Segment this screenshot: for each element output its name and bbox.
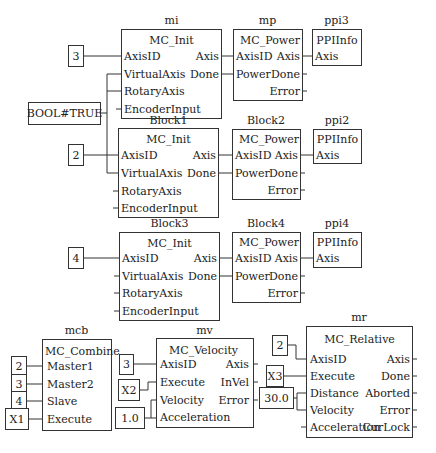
block2-in-axisid: AxisID [235, 150, 271, 162]
block1-in-rotaryaxis: RotaryAxis [121, 186, 182, 198]
block4-type: MC_Power [239, 237, 299, 249]
block1-axisid-constant[interactable]: 2 [68, 144, 84, 166]
block3-in-rotaryaxis: RotaryAxis [122, 288, 183, 300]
mv-in-axisid: AxisID [160, 359, 196, 371]
ppi4-function-block[interactable]: PPIInfo Axis [313, 232, 362, 268]
mi-type: MC_Init [122, 35, 221, 47]
ppi4-type: PPIInfo [314, 237, 361, 249]
ppi3-type: PPIInfo [313, 35, 361, 47]
block1-out-axis: Axis [193, 150, 216, 162]
mr-out-curlock: CurLock [362, 422, 410, 434]
mp-function-block[interactable]: MC_Power AxisID Power Axis Done Error [233, 29, 303, 101]
mp-instance-name: mp [233, 15, 302, 27]
ppi4-in-axis: Axis [316, 253, 339, 265]
mp-out-axis: Axis [277, 51, 300, 63]
mr-in-distance: Distance [310, 388, 359, 400]
mcb-in-execute: Execute [47, 414, 92, 426]
block4-in-axisid: AxisID [235, 253, 271, 265]
mcb-function-block[interactable]: MC_Combine Master1 Master2 Slave Execute [42, 339, 112, 431]
block1-type: MC_Init [119, 134, 218, 146]
ppi2-in-axis: Axis [316, 150, 339, 162]
block1-instance-name: Block1 [118, 115, 219, 127]
mcb-execute-constant[interactable]: X1 [5, 408, 29, 430]
block3-in-axisid: AxisID [122, 253, 158, 265]
mi-in-rotaryaxis: RotaryAxis [124, 86, 185, 98]
block4-in-power: Power [235, 271, 270, 283]
mv-instance-name: mv [156, 325, 253, 337]
mi-instance-name: mi [121, 15, 222, 27]
bool-true-constant[interactable]: BOOL#TRUE [28, 102, 101, 125]
mi-in-axisid: AxisID [124, 51, 160, 63]
mp-in-axisid: AxisID [236, 51, 272, 63]
mcb-in-master2: Master2 [47, 379, 94, 391]
mp-in-power: Power [236, 69, 271, 81]
ppi2-type: PPIInfo [314, 134, 361, 146]
mr-type: MC_Relative [307, 334, 412, 346]
block1-in-virtualaxis: VirtualAxis [121, 168, 182, 180]
mr-axisid-constant[interactable]: 2 [272, 335, 288, 356]
block3-out-done: Done [188, 271, 217, 283]
mv-in-velocity: Velocity [160, 395, 204, 407]
mv-type: MC_Velocity [169, 345, 238, 357]
mv-out-invel: InVel [221, 377, 249, 389]
mr-in-execute: Execute [310, 371, 355, 383]
block1-in-axisid: AxisID [121, 150, 157, 162]
block1-out-done: Done [187, 168, 216, 180]
block4-out-axis: Axis [275, 253, 298, 265]
mv-in-acceleration: Acceleration [160, 412, 230, 424]
mv-out-error: Error [219, 395, 249, 407]
block2-function-block[interactable]: MC_Power AxisID Power Axis Done Error [232, 129, 301, 200]
block2-in-power: Power [235, 168, 270, 180]
block1-in-encoderinput: EncoderInput [121, 203, 198, 215]
mr-out-aborted: Aborted [365, 388, 410, 400]
block3-in-encoderinput: EncoderInput [122, 306, 199, 318]
mi-axisid-constant[interactable]: 3 [68, 45, 84, 67]
block4-out-error: Error [268, 288, 298, 300]
block3-out-axis: Axis [194, 253, 217, 265]
block3-type: MC_Init [120, 238, 219, 250]
ppi3-instance-name: ppi3 [312, 15, 361, 27]
mp-out-error: Error [270, 86, 300, 98]
block4-instance-name: Block4 [232, 218, 300, 230]
mr-distance-velocity-constant[interactable]: 30.0 [259, 387, 294, 409]
block3-in-virtualaxis: VirtualAxis [122, 271, 183, 283]
ppi2-function-block[interactable]: PPIInfo Axis [313, 129, 362, 164]
mp-type: MC_Power [240, 35, 300, 47]
ppi3-in-axis: Axis [315, 51, 338, 63]
mi-function-block[interactable]: MC_Init AxisID VirtualAxis RotaryAxis En… [121, 29, 222, 119]
mr-out-axis: Axis [387, 354, 410, 366]
block1-function-block[interactable]: MC_Init AxisID VirtualAxis RotaryAxis En… [118, 128, 219, 218]
ppi4-instance-name: ppi4 [313, 218, 361, 230]
block4-out-done: Done [269, 271, 298, 283]
block2-type: MC_Power [239, 134, 299, 146]
mv-in-execute: Execute [160, 377, 205, 389]
ppi3-function-block[interactable]: PPIInfo Axis [312, 29, 362, 66]
mr-in-axisid: AxisID [310, 354, 346, 366]
ppi2-instance-name: ppi2 [313, 115, 361, 127]
block4-function-block[interactable]: MC_Power AxisID Power Axis Done Error [232, 232, 301, 303]
block3-axisid-constant[interactable]: 4 [68, 247, 84, 269]
mr-out-error: Error [380, 405, 410, 417]
mi-in-virtualaxis: VirtualAxis [124, 69, 185, 81]
block3-function-block[interactable]: MC_Init AxisID VirtualAxis RotaryAxis En… [119, 232, 220, 321]
mr-function-block[interactable]: MC_Relative AxisID Execute Distance Velo… [306, 326, 413, 438]
block2-out-axis: Axis [275, 150, 298, 162]
block2-instance-name: Block2 [232, 115, 300, 127]
mcb-in-slave: Slave [47, 396, 77, 408]
mv-out-axis: Axis [226, 359, 249, 371]
mi-out-axis: Axis [196, 51, 219, 63]
mv-execute-constant[interactable]: X2 [118, 379, 140, 401]
mcb-type: MC_Combine [45, 346, 120, 358]
block3-instance-name: Block3 [119, 218, 220, 230]
block2-out-error: Error [268, 185, 298, 197]
mcb-in-master1: Master1 [47, 361, 94, 373]
mr-instance-name: mr [306, 312, 412, 324]
mr-in-velocity: Velocity [310, 405, 354, 417]
mr-execute-constant[interactable]: X3 [266, 365, 284, 387]
mv-function-block[interactable]: MC_Velocity AxisID Execute Velocity Acce… [156, 338, 254, 428]
mr-out-done: Done [381, 371, 410, 383]
mv-velocity-acceleration-constant[interactable]: 1.0 [115, 407, 145, 429]
mv-axisid-constant[interactable]: 3 [119, 354, 134, 375]
block2-out-done: Done [269, 168, 298, 180]
mi-out-done: Done [190, 69, 219, 81]
